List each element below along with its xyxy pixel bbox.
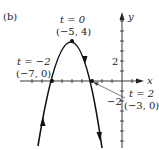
leader-arrow-icon bbox=[93, 82, 99, 86]
y-tick-label-2: 2 bbox=[112, 57, 118, 67]
label-p0: (−5, 4) bbox=[56, 27, 91, 37]
label-t0: t = 0 bbox=[60, 15, 85, 25]
point-left-root bbox=[50, 79, 54, 83]
y-tick-label-neg2: −2 bbox=[107, 97, 122, 107]
curve-arrow-up-icon bbox=[40, 117, 46, 126]
point-vertex bbox=[70, 39, 74, 43]
x-axis-label: x bbox=[147, 76, 153, 86]
label-pm2: (−7, 0) bbox=[16, 69, 51, 79]
label-tm2: t = −2 bbox=[17, 57, 51, 67]
label-t2: t = 2 bbox=[129, 89, 154, 99]
label-p2: (−3, 0) bbox=[124, 101, 159, 111]
y-axis-arrow-icon bbox=[120, 12, 125, 20]
curve-arrow-down-icon bbox=[82, 56, 88, 64]
y-axis-label: y bbox=[128, 12, 134, 22]
x-axis-arrow-icon bbox=[136, 79, 144, 84]
panel-label: (b) bbox=[3, 12, 17, 22]
